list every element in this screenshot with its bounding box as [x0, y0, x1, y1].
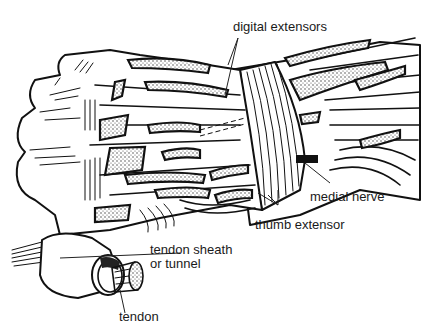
label-tendon: tendon — [119, 310, 159, 324]
label-digital-extensors: digital extensors — [233, 20, 327, 34]
medial-nerve-marker — [296, 155, 318, 163]
label-tendon-sheath: tendon sheath or tunnel — [150, 243, 232, 271]
hand-illustration — [0, 0, 424, 334]
hand-dorsum — [17, 50, 262, 235]
label-tendon-sheath-line2: or tunnel — [150, 257, 232, 271]
label-medial-nerve: medial nerve — [310, 190, 384, 204]
label-thumb-extensor: thumb extensor — [255, 218, 345, 232]
hand-anatomy-diagram: digital extensors medial nerve thumb ext… — [0, 0, 424, 334]
tendon-sheath-inset — [12, 233, 143, 298]
label-tendon-sheath-line1: tendon sheath — [150, 243, 232, 257]
